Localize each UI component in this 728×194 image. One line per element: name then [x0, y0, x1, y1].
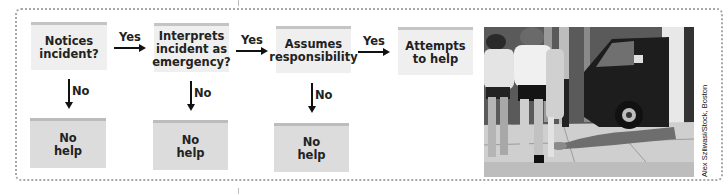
- arrow-right-icon: [383, 48, 390, 56]
- arrow-right-icon: [261, 47, 268, 55]
- no-label: No: [194, 86, 212, 100]
- no-label: No: [72, 84, 90, 98]
- step-assumes-responsibility: Assumes responsibility: [276, 26, 351, 73]
- top-tick-mark: [238, 0, 239, 6]
- bystander-photo: [484, 27, 694, 177]
- step-label: Notices incident?: [39, 35, 98, 61]
- outcome-no-help-1: No help: [30, 118, 106, 168]
- outcome-no-help-2: No help: [153, 120, 228, 170]
- step-label: Assumes responsibility: [269, 38, 357, 64]
- outcome-label: No help: [54, 132, 82, 158]
- yes-arrow-2: Yes: [236, 40, 268, 54]
- arrow-down-icon: [187, 104, 195, 111]
- bottom-tick-mark: [238, 188, 239, 194]
- yes-arrow-3: Yes: [358, 41, 390, 55]
- yes-label: Yes: [114, 30, 146, 44]
- outcome-label: No help: [297, 136, 325, 162]
- no-arrow-3: No: [311, 83, 341, 113]
- street-scene-illustration: [484, 27, 694, 177]
- no-arrow-1: No: [68, 79, 98, 109]
- yes-label: Yes: [236, 33, 268, 47]
- yes-arrow-1: Yes: [114, 37, 146, 51]
- step-notices-incident: Notices incident?: [31, 22, 107, 70]
- step-label: Attempts to help: [405, 40, 465, 66]
- arrow-line: [114, 47, 140, 49]
- arrow-down-icon: [308, 106, 316, 113]
- step-interprets-emergency: Interprets incident as emergency?: [154, 23, 229, 72]
- yes-label: Yes: [358, 34, 390, 48]
- photo-credit: Alex Szilwasi/Stock, Boston: [700, 85, 709, 177]
- arrow-line: [236, 50, 262, 52]
- no-arrow-2: No: [190, 81, 220, 111]
- arrow-line: [68, 79, 70, 103]
- no-label: No: [315, 88, 333, 102]
- step-attempts-to-help: Attempts to help: [398, 27, 473, 75]
- arrow-line: [358, 51, 384, 53]
- arrow-line: [311, 83, 313, 107]
- arrow-down-icon: [65, 102, 73, 109]
- outcome-label: No help: [176, 134, 204, 160]
- step-label: Interprets incident as emergency?: [152, 30, 230, 69]
- outcome-no-help-3: No help: [274, 123, 349, 172]
- arrow-line: [190, 81, 192, 105]
- arrow-right-icon: [139, 44, 146, 52]
